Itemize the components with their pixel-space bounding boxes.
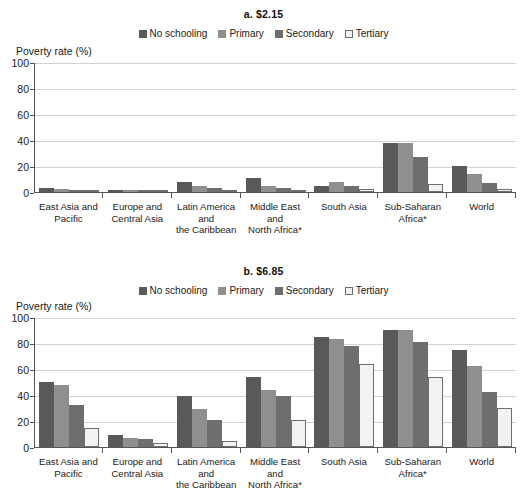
bar-1-3[interactable] — [153, 190, 168, 192]
x-label-2-line-1: and — [173, 213, 240, 225]
bar-1-2[interactable] — [138, 190, 153, 192]
bar-6-1[interactable] — [467, 174, 482, 192]
bar-5-1[interactable] — [398, 330, 413, 447]
bar-1-0[interactable] — [108, 190, 123, 192]
bar-2-3[interactable] — [222, 190, 237, 192]
bar-1-0[interactable] — [108, 435, 123, 447]
x-label-0-line-1: Pacific — [35, 213, 102, 225]
legend-item-0[interactable]: No schooling — [139, 285, 208, 296]
panel-b-plot — [34, 318, 516, 448]
bar-1-1[interactable] — [123, 438, 138, 447]
legend-item-1[interactable]: Primary — [218, 28, 263, 39]
bar-5-2[interactable] — [413, 342, 428, 447]
legend-swatch-1-icon — [218, 287, 226, 295]
x-tick-3 — [241, 193, 310, 198]
y-tick-label-60: 60 — [17, 364, 29, 376]
panel-a-plot — [34, 63, 516, 193]
x-label-3-line-2: North Africa* — [242, 224, 309, 236]
bar-3-2[interactable] — [276, 396, 291, 447]
legend-item-2[interactable]: Secondary — [275, 28, 334, 39]
x-label-0: East Asia andPacific — [34, 201, 103, 236]
bar-0-1[interactable] — [54, 385, 69, 447]
bar-4-3[interactable] — [359, 189, 374, 192]
panel-a-legend: No schooling Primary Secondary Tertiary — [0, 28, 527, 39]
bar-4-0[interactable] — [314, 186, 329, 193]
bar-6-1[interactable] — [467, 366, 482, 447]
bar-0-2[interactable] — [69, 190, 84, 192]
x-label-5-line-1: Africa* — [379, 468, 446, 480]
bar-0-0[interactable] — [39, 188, 54, 192]
bar-5-3[interactable] — [428, 377, 443, 447]
bar-group-0 — [35, 318, 104, 447]
panel-b-x-ticks — [34, 448, 516, 453]
x-label-2-line-1: and — [173, 468, 240, 480]
bar-6-0[interactable] — [452, 350, 467, 448]
x-label-3-line-1: and — [242, 213, 309, 225]
bar-4-2[interactable] — [344, 186, 359, 193]
bar-5-3[interactable] — [428, 184, 443, 192]
x-label-4-line-0: South Asia — [310, 201, 377, 213]
bar-6-2[interactable] — [482, 392, 497, 447]
bar-0-1[interactable] — [54, 189, 69, 192]
bar-3-2[interactable] — [276, 188, 291, 192]
legend-item-3[interactable]: Tertiary — [345, 285, 389, 296]
bar-0-0[interactable] — [39, 382, 54, 447]
legend-item-2[interactable]: Secondary — [275, 285, 334, 296]
bar-0-3[interactable] — [84, 190, 99, 192]
bar-4-3[interactable] — [359, 364, 374, 447]
bar-2-2[interactable] — [207, 188, 222, 192]
x-tick-5 — [378, 448, 447, 453]
legend-item-1[interactable]: Primary — [218, 285, 263, 296]
bar-2-2[interactable] — [207, 420, 222, 447]
bar-4-0[interactable] — [314, 337, 329, 448]
bar-4-1[interactable] — [329, 339, 344, 447]
legend-label-0: No schooling — [150, 28, 208, 39]
bar-3-1[interactable] — [261, 390, 276, 447]
bar-5-0[interactable] — [383, 330, 398, 447]
legend-item-3[interactable]: Tertiary — [345, 28, 389, 39]
bar-2-3[interactable] — [222, 441, 237, 448]
x-tick-5 — [378, 193, 447, 198]
bar-3-0[interactable] — [246, 178, 261, 192]
bar-3-1[interactable] — [261, 186, 276, 193]
bar-4-2[interactable] — [344, 346, 359, 447]
x-label-0: East Asia andPacific — [34, 456, 103, 491]
x-label-6-line-0: World — [448, 456, 515, 468]
bar-6-3[interactable] — [497, 189, 512, 192]
panel-b-bar-groups — [35, 318, 516, 447]
bar-2-1[interactable] — [192, 186, 207, 193]
x-tick-1 — [103, 193, 172, 198]
panel-a-x-axis-labels: East Asia andPacificEurope andCentral As… — [34, 201, 516, 236]
bar-group-0 — [35, 63, 104, 192]
bar-0-3[interactable] — [84, 428, 99, 448]
bar-6-0[interactable] — [452, 166, 467, 192]
bar-3-3[interactable] — [291, 420, 306, 447]
bar-1-3[interactable] — [153, 443, 168, 447]
bar-5-1[interactable] — [398, 143, 413, 192]
legend-item-0[interactable]: No schooling — [139, 28, 208, 39]
bar-4-1[interactable] — [329, 182, 344, 192]
bar-1-1[interactable] — [123, 190, 138, 192]
legend-label-0: No schooling — [150, 285, 208, 296]
bar-5-0[interactable] — [383, 143, 398, 192]
x-label-1-line-1: Central Asia — [104, 213, 171, 225]
bar-6-3[interactable] — [497, 408, 512, 447]
bar-3-0[interactable] — [246, 377, 261, 447]
x-label-4-line-0: South Asia — [310, 456, 377, 468]
panel-a-y-axis: 020406080100 — [0, 63, 34, 193]
bar-group-3 — [241, 63, 310, 192]
legend-label-2: Secondary — [286, 28, 334, 39]
bar-2-0[interactable] — [177, 396, 192, 447]
x-label-1: Europe andCentral Asia — [103, 456, 172, 491]
bar-3-3[interactable] — [291, 190, 306, 192]
x-label-3: Middle EastandNorth Africa* — [241, 456, 310, 491]
bar-2-0[interactable] — [177, 182, 192, 192]
x-tick-0 — [34, 448, 103, 453]
panel-a-x-ticks — [34, 193, 516, 198]
y-tick-label-40: 40 — [17, 135, 29, 147]
bar-5-2[interactable] — [413, 157, 428, 192]
bar-2-1[interactable] — [192, 409, 207, 447]
bar-1-2[interactable] — [138, 439, 153, 447]
bar-6-2[interactable] — [482, 183, 497, 192]
bar-0-2[interactable] — [69, 405, 84, 447]
